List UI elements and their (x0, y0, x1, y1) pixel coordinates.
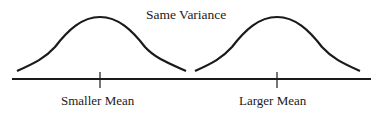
bell-curve-smaller-mean (17, 17, 186, 71)
label-smaller-mean: Smaller Mean (61, 93, 134, 109)
bell-curve-larger-mean (195, 17, 360, 71)
label-larger-mean: Larger Mean (239, 93, 306, 109)
diagram-title: Same Variance (146, 7, 226, 23)
